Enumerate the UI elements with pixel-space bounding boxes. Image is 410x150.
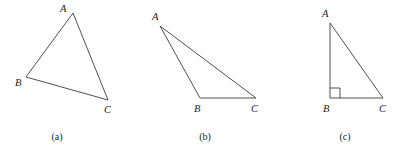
panel-a-vertex-label-B: B [15,77,22,88]
panel-a-vertex-label-C: C [104,104,112,115]
panel-a-interior [26,13,108,100]
panel-c: ABC(c) [321,8,387,143]
panel-b-vertex-label-A: A [151,11,159,22]
triangles-figure-canvas: ABC(a)ABC(b)ABC(c) [0,0,410,150]
panel-c-caption: (c) [339,131,350,143]
panel-b: ABC(b) [151,11,259,143]
panel-a-caption: (a) [51,131,62,143]
triangles-figure: ABC(a)ABC(b)ABC(c) [0,0,410,150]
panel-c-vertex-label-B: B [323,103,330,114]
panel-c-vertex-label-C: C [379,103,387,114]
panels-layer: ABC(a)ABC(b)ABC(c) [15,3,387,143]
panel-b-vertex-label-C: C [251,103,259,114]
panel-c-vertex-label-A: A [321,8,329,19]
panel-a-vertex-label-A: A [59,3,67,14]
panel-a: ABC(a) [15,3,112,143]
panel-b-caption: (b) [199,131,211,143]
panel-b-vertex-label-B: B [194,103,201,114]
